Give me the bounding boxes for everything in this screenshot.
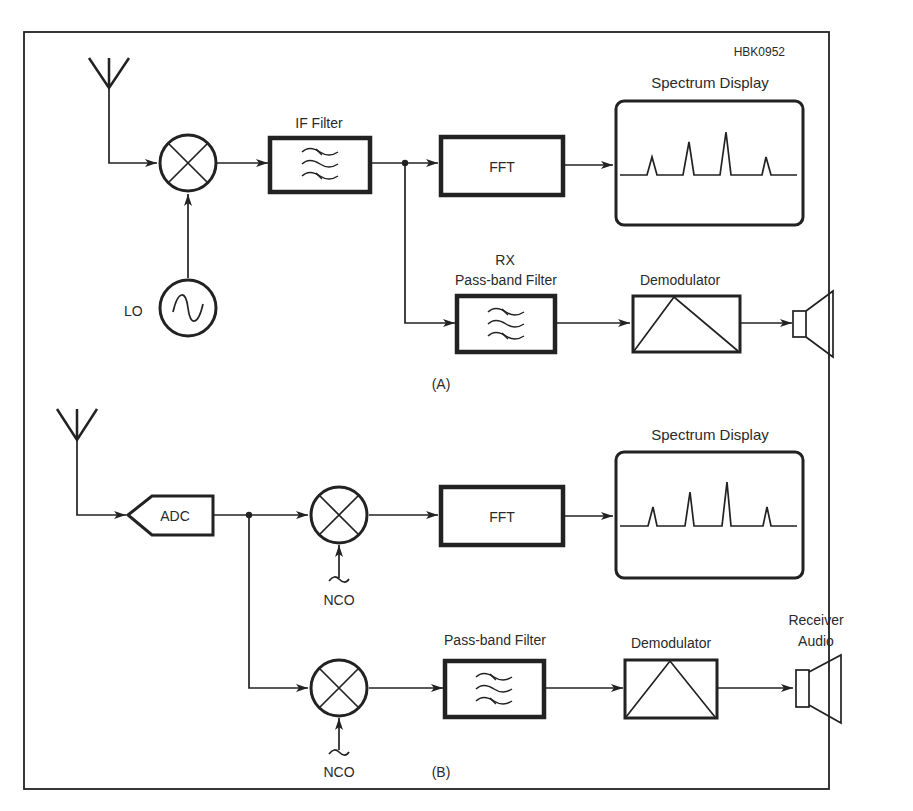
fft-label: FFT (489, 509, 515, 525)
mixer-icon (311, 487, 367, 543)
mixer-icon (311, 660, 367, 716)
rx-filter-label-line2: Pass-band Filter (455, 272, 557, 288)
antenna-icon (57, 409, 97, 440)
nco-bottom-label: NCO (323, 764, 354, 780)
panel-b-caption: (B) (432, 764, 451, 780)
receiver-audio-label-line1: Receiver (788, 612, 844, 628)
panel-a: LO IF Filter FFT Spectrum Display (89, 58, 833, 392)
block-diagram: HBK0952 LO IF Filter (0, 0, 913, 811)
demodulator-label: Demodulator (640, 272, 720, 288)
adc-label: ADC (160, 508, 190, 524)
spectrum-display-label: Spectrum Display (651, 74, 769, 91)
demodulator-block (633, 296, 740, 352)
passband-filter-block (445, 661, 544, 717)
antenna-to-adc-line (77, 440, 126, 515)
rx-filter-block (457, 296, 555, 352)
lo-label: LO (124, 303, 143, 319)
nco-icon (329, 718, 349, 755)
speaker-icon (796, 655, 841, 723)
if-filter-label: IF Filter (295, 115, 343, 131)
demodulator-label: Demodulator (631, 635, 711, 651)
fft-block: FFT (441, 487, 563, 545)
passband-filter-label: Pass-band Filter (444, 632, 546, 648)
fft-label: FFT (489, 159, 515, 175)
panel-a-caption: (A) (432, 376, 451, 392)
spectrum-display (616, 452, 803, 578)
fft-block: FFT (441, 137, 563, 195)
spectrum-display (616, 101, 803, 225)
adc-to-mixer2-line (249, 515, 308, 688)
antenna-icon (89, 58, 129, 88)
antenna-to-mixer-line (109, 88, 157, 163)
mixer-icon (160, 135, 216, 191)
adc-block: ADC (128, 496, 213, 535)
demodulator-block (625, 660, 717, 718)
spectrum-display-label: Spectrum Display (651, 426, 769, 443)
receiver-audio-label-line2: Audio (798, 633, 834, 649)
figure-id: HBK0952 (734, 45, 786, 59)
nco-icon (329, 545, 349, 582)
if-filter-block (270, 138, 370, 192)
panel-b: ADC NCO FFT Spectrum Display (57, 409, 844, 780)
speaker-icon (793, 291, 833, 357)
rx-filter-label-line1: RX (495, 252, 515, 268)
nco-top-label: NCO (323, 592, 354, 608)
oscillator-icon (160, 280, 216, 336)
